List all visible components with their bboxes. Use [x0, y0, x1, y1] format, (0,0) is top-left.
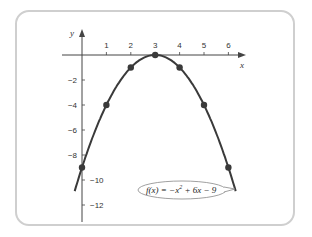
x-axis-arrow-icon [238, 52, 246, 58]
data-point [176, 64, 182, 70]
data-point [201, 102, 207, 108]
y-tick-label: −10 [90, 176, 104, 185]
x-tick-label: 3 [153, 41, 158, 50]
y-tick-label: −8 [68, 151, 78, 160]
y-tick-label: −12 [90, 201, 104, 210]
function-label-callout: f(x) = −x2 + 6x − 9 [138, 181, 235, 199]
y-axis-arrow-icon [79, 29, 85, 37]
x-tick-label: 5 [202, 41, 207, 50]
data-point [79, 164, 85, 170]
y-tick-label: −6 [68, 126, 78, 135]
data-point [225, 164, 231, 170]
data-point [103, 102, 109, 108]
data-point [152, 52, 158, 58]
callout-pointer [224, 187, 235, 192]
x-tick-label: 4 [177, 41, 182, 50]
parabola-curve [75, 55, 236, 191]
x-tick-label: 2 [129, 41, 134, 50]
y-axis-label: y [69, 28, 74, 38]
data-points [79, 52, 232, 171]
function-label: f(x) = −x2 + 6x − 9 [146, 184, 217, 195]
y-tick-label: −2 [68, 76, 78, 85]
y-tick-label: −4 [68, 101, 78, 110]
data-point [128, 64, 134, 70]
parabola-chart: xy 123456−2−4−6−8−10−12 f(x) = −x2 + 6x … [0, 0, 312, 237]
x-tick-label: 6 [226, 41, 231, 50]
x-tick-label: 1 [104, 41, 109, 50]
x-axis-label: x [239, 60, 244, 70]
